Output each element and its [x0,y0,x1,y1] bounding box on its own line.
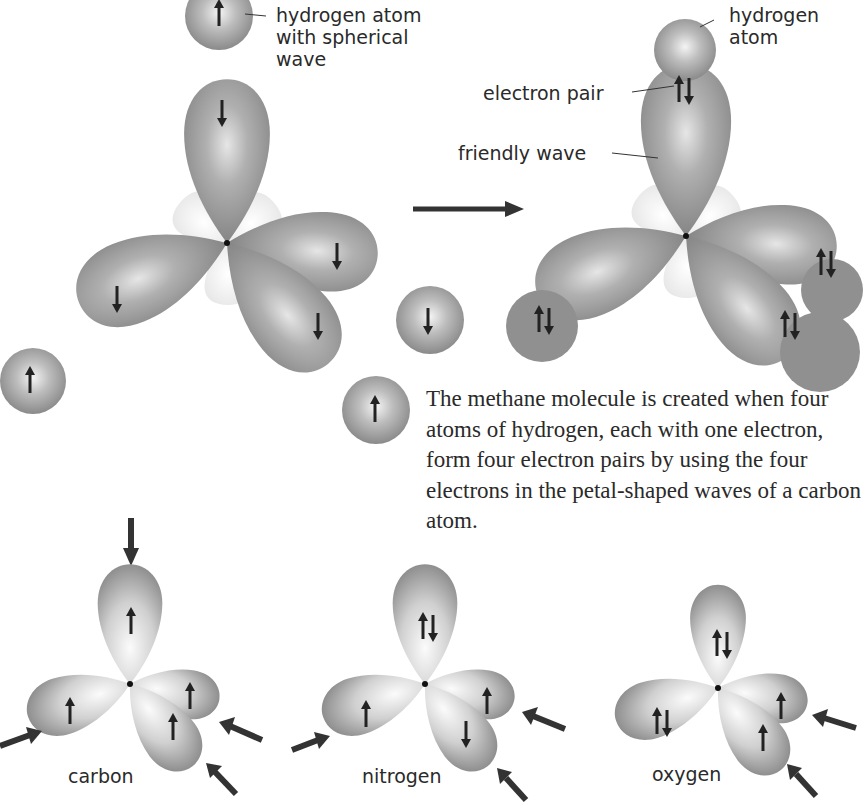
label-carbon: carbon [68,765,134,787]
oxygen-atom-diagram [607,585,811,788]
down-arrow-icon [123,518,139,566]
hydrogen-atom-left [0,348,66,414]
nitrogen-atom-diagram [314,564,518,783]
caption-text: The methane molecule is created when fou… [426,384,866,537]
carbon-petals-left [63,79,381,390]
hydrogen-atom-top [185,0,266,50]
carbon-atom-diagram [19,564,223,783]
hydrogen-atom-middle [396,286,464,354]
label-hydrogen-spherical: hydrogen atom with spherical wave [276,4,421,70]
label-nitrogen: nitrogen [362,765,442,787]
label-hydrogen-atom: hydrogen atom [729,4,819,48]
label-oxygen: oxygen [652,763,721,785]
methane-diagram: hydrogen atom with spherical wave hydrog… [0,0,866,810]
label-electron-pair: electron pair [483,82,603,104]
hydrogen-atom-lower [342,376,410,444]
label-friendly-wave: friendly wave [458,142,586,164]
reaction-arrow-icon [413,201,524,217]
methane-molecule [506,19,863,392]
